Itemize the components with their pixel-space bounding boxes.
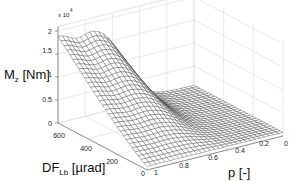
svg-text:p [-]: p [-]	[228, 165, 250, 180]
p-axis-label: p [-]	[228, 165, 250, 180]
p-tick: 0	[284, 140, 288, 147]
p-tick: 0.2	[259, 140, 269, 147]
svg-text:4: 4	[70, 8, 73, 13]
svg-text:Mz [Nm]: Mz [Nm]	[4, 67, 50, 84]
p-tick: 1	[154, 169, 158, 176]
svg-text:DFLb [µrad]: DFLb [µrad]	[42, 160, 105, 177]
df-axis-label: DFLb [µrad]	[42, 160, 105, 177]
z-tick: 0	[48, 120, 52, 127]
p-tick: 0.4	[235, 147, 245, 154]
df-tick: 200	[106, 158, 118, 165]
svg-text:x 10: x 10	[58, 12, 70, 18]
z-tick: 1.5	[42, 47, 52, 54]
z-axis-label: Mz [Nm]	[4, 67, 50, 84]
p-tick: 0.8	[179, 162, 189, 169]
p-tick: 0.6	[208, 154, 218, 161]
z-tick: 2	[48, 28, 52, 35]
z-tick: 0.5	[42, 96, 52, 103]
df-tick: 0	[141, 170, 145, 177]
df-tick: 600	[53, 132, 65, 139]
z-multiplier: x 10 4	[58, 8, 73, 18]
surface-plot: 2 1.5 1 0.5 0 x 10 4 600 400 200 0 1 0.8…	[0, 0, 290, 181]
df-tick: 400	[80, 145, 92, 152]
